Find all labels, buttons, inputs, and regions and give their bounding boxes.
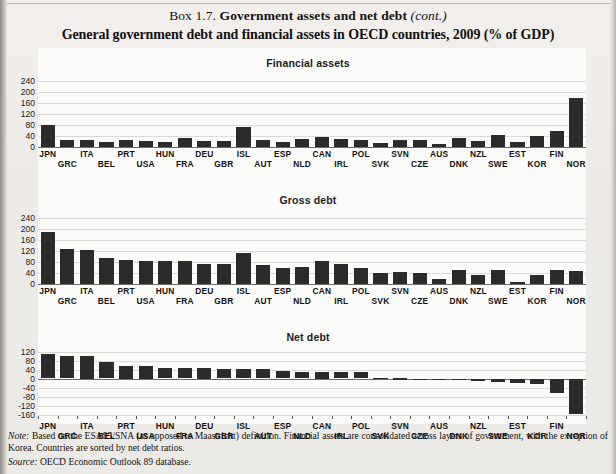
gridline [38,229,586,230]
x-axis-label-isl: ISL [237,149,251,159]
x-axis-label-svn: SVN [391,149,409,159]
bar [256,140,270,147]
y-axis-tick-label: 160 [21,235,35,245]
bar [530,275,544,284]
x-axis-label-ita: ITA [80,149,93,159]
y-axis-tick-label: 240 [21,213,35,223]
y-axis-tick-label: -80 [23,392,35,402]
bar [569,271,583,284]
bar [236,369,250,379]
x-axis-tick [410,416,411,419]
x-axis-tick [155,416,156,419]
gridline [38,125,586,126]
x-axis-label-nld: NLD [293,159,311,169]
gridline [38,406,586,407]
page-top-rule [7,3,610,4]
x-axis-label-irl: IRL [334,296,348,306]
x-axis-label-aut: AUT [254,296,272,306]
x-axis-label-cze: CZE [411,159,428,169]
gridline [38,397,586,398]
x-axis-label-fin: FIN [550,149,564,159]
bar [99,362,113,378]
x-axis-tick [586,416,587,419]
x-axis-tick [371,416,372,419]
x-axis-tick [390,416,391,419]
bar [158,142,172,147]
chart-title-1: Financial assets [0,57,616,70]
bar [178,368,192,379]
bar [413,273,427,284]
x-axis-label-est: EST [509,149,526,159]
gridline [38,388,586,389]
x-axis-tick [566,416,567,419]
gridline [38,81,586,82]
bar [99,258,113,284]
bar [354,140,368,147]
box-heading: Box 1.7. Government assets and net debt … [0,8,616,24]
x-axis-label-pol: POL [352,286,370,296]
x-axis-tick [312,416,313,419]
x-axis-tick [38,416,39,419]
bar [550,270,564,284]
bar [99,142,113,147]
bar [158,368,172,379]
x-axis-label-dnk: DNK [449,296,468,306]
x-axis-tick [527,416,528,419]
x-axis-label-esp: ESP [274,286,291,296]
box-cont-marker: (cont.) [411,8,447,23]
x-axis-label-cze: CZE [411,296,428,306]
bar [334,372,348,378]
bar [334,264,348,284]
y-axis-tick-label: 200 [21,224,35,234]
x-axis-label-fin: FIN [550,286,564,296]
x-axis-label-aut: AUT [254,159,272,169]
bar [41,125,55,147]
x-axis-tick [488,416,489,419]
bar [158,261,172,284]
y-axis-tick-label: -40 [23,383,35,393]
bar [80,356,94,379]
bar [139,366,153,378]
x-axis-tick [469,416,470,419]
y-axis-tick-label: 120 [21,246,35,256]
bar [276,371,290,379]
bar [178,138,192,147]
figure-title: General government debt and financial as… [0,27,616,43]
x-axis-label-nzl: NZL [470,149,487,159]
bar [256,265,270,284]
x-axis-label-bel: BEL [98,159,115,169]
x-axis-label-deu: DEU [195,149,213,159]
x-axis-tick [214,416,215,419]
x-axis-tick [273,416,274,419]
bar [276,142,290,147]
x-axis-tick [58,416,59,419]
x-axis-label-nzl: NZL [470,286,487,296]
page-right-edge [610,0,616,474]
bar [315,372,329,379]
bar [315,137,329,147]
x-axis-label-isl: ISL [237,286,251,296]
bar [393,140,407,147]
x-axis-label-ita: ITA [80,286,93,296]
bar [491,135,505,147]
x-axis-label-prt: PRT [117,286,134,296]
y-axis-tick-label: 80 [26,120,35,130]
gridline [38,114,586,115]
bar [452,138,466,147]
bar [295,372,309,379]
bar [217,369,231,379]
bar [41,354,55,378]
figure-footer: Note: Based on the ESA95/SNA (as opposed… [8,430,608,468]
x-axis-label-can: CAN [312,286,331,296]
bar [276,268,290,284]
bar [530,136,544,147]
source-label: Source: [8,456,37,467]
bar [452,379,466,381]
y-axis-tick-label: 40 [26,268,35,278]
x-axis-label-hun: HUN [156,149,175,159]
x-axis-tick [351,416,352,419]
x-axis-tick [195,416,196,419]
bar [550,131,564,147]
gridline [38,218,586,219]
bar [413,140,427,147]
